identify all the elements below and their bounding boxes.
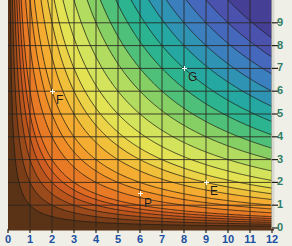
x-axis-label: 8 (176, 234, 192, 245)
x-axis-label: 4 (88, 234, 104, 245)
y-axis-label: 2 (277, 176, 290, 187)
data-point-label: G (188, 70, 197, 84)
data-point-label: P (144, 196, 152, 210)
data-point-marker[interactable] (204, 180, 209, 185)
y-axis-label: 1 (277, 199, 290, 210)
data-point-marker[interactable] (50, 89, 55, 94)
y-axis-label: 3 (277, 154, 290, 165)
y-axis-label: 9 (277, 17, 290, 28)
data-point-marker[interactable] (182, 66, 187, 71)
x-axis-label: 6 (132, 234, 148, 245)
y-axis-label: 7 (277, 62, 290, 73)
x-axis-label: 5 (110, 234, 126, 245)
y-axis-label: 6 (277, 85, 290, 96)
data-point-label: E (210, 184, 218, 198)
x-axis-label: 11 (242, 234, 258, 245)
contour-chart: 01234567891011120123456789FGEP (0, 0, 292, 246)
x-axis-label: 0 (0, 234, 16, 245)
data-point-label: F (56, 93, 63, 107)
y-axis-label: 0 (277, 222, 290, 233)
y-axis-label: 4 (277, 131, 290, 142)
data-point-marker[interactable] (138, 191, 143, 196)
x-axis-label: 10 (220, 234, 236, 245)
x-axis-label: 12 (264, 234, 280, 245)
x-axis-label: 7 (154, 234, 170, 245)
y-axis-label: 5 (277, 108, 290, 119)
x-axis-label: 9 (198, 234, 214, 245)
x-axis-label: 2 (44, 234, 60, 245)
x-axis-label: 1 (22, 234, 38, 245)
y-axis-label: 8 (277, 40, 290, 51)
x-axis-label: 3 (66, 234, 82, 245)
